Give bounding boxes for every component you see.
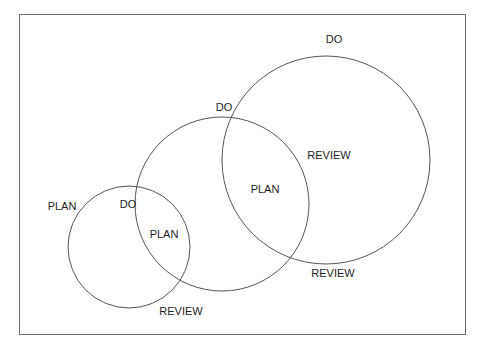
label-plan-medium-inner: PLAN bbox=[251, 184, 280, 195]
label-plan-small-inner: PLAN bbox=[150, 229, 179, 240]
label-review-large-inner: REVIEW bbox=[307, 150, 350, 161]
label-plan-outer: PLAN bbox=[48, 201, 77, 212]
medium-cycle-circle bbox=[135, 117, 309, 291]
label-review-medium: REVIEW bbox=[311, 268, 354, 279]
label-review-small: REVIEW bbox=[159, 306, 202, 317]
label-do-small: DO bbox=[120, 199, 137, 210]
label-do-large: DO bbox=[326, 34, 343, 45]
cycles-diagram bbox=[0, 0, 479, 355]
label-do-medium: DO bbox=[216, 102, 233, 113]
